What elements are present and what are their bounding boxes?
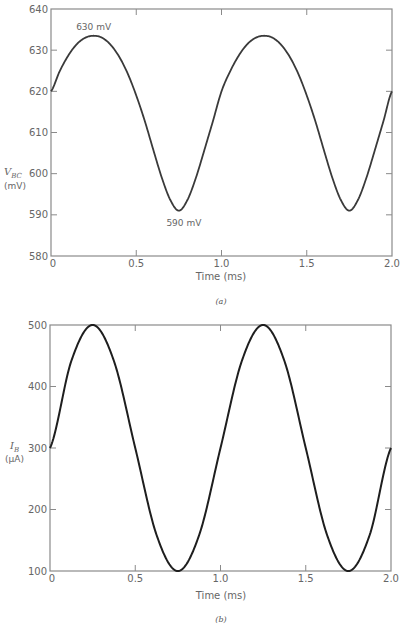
chart-b-x-axis-label: Time (ms) (195, 590, 247, 601)
chart-b-plot-area (50, 325, 391, 571)
y-tick-label: 640 (29, 4, 48, 15)
chart-a-y-axis-unit: (mV) (4, 181, 26, 191)
chart-b-y-tick-labels: 100200300400500 (28, 320, 47, 577)
chart-a-y-tick-labels: 580590600610620630640 (29, 4, 48, 262)
x-tick-label: 1.0 (213, 573, 229, 584)
x-tick-label: 1.5 (299, 258, 315, 269)
chart-a-y-axis-label: VBC (4, 166, 23, 180)
chart-b-svg: 100200300400500 00.51.01.52.0 IB (µA) Ti… (0, 310, 405, 629)
chart-a-annotation-peak: 630 mV (76, 22, 112, 32)
chart-b-ib-vs-time: 100200300400500 00.51.01.52.0 IB (µA) Ti… (0, 310, 405, 629)
chart-a-plot-area (51, 9, 392, 256)
series-line (51, 36, 392, 211)
y-tick-label: 610 (29, 127, 48, 138)
y-tick-label: 620 (29, 86, 48, 97)
plot-frame (51, 9, 392, 256)
x-tick-label: 0.5 (128, 258, 144, 269)
x-tick-label: 2.0 (384, 258, 400, 269)
x-tick-label: 1.0 (214, 258, 230, 269)
series-line (50, 325, 391, 571)
chart-b-x-tick-labels: 00.51.01.52.0 (49, 573, 399, 584)
chart-a-svg: 580590600610620630640 00.51.01.52.0 VBC … (0, 0, 405, 310)
chart-a-x-tick-labels: 00.51.01.52.0 (50, 258, 400, 269)
chart-b-caption: (b) (215, 615, 226, 624)
y-tick-label: 300 (28, 443, 47, 454)
y-tick-label: 200 (28, 504, 47, 515)
y-tick-label: 400 (28, 381, 47, 392)
y-tick-label: 630 (29, 45, 48, 56)
x-tick-label: 0.5 (127, 573, 143, 584)
x-tick-label: 0 (49, 573, 55, 584)
chart-a-caption: (a) (215, 297, 226, 306)
y-tick-label: 500 (28, 320, 47, 331)
y-tick-label: 590 (29, 209, 48, 220)
chart-a-x-axis-label: Time (ms) (195, 271, 247, 282)
y-tick-label: 600 (29, 168, 48, 179)
chart-a-annotation-trough: 590 mV (166, 218, 202, 228)
y-tick-label: 100 (28, 566, 47, 577)
x-tick-label: 1.5 (298, 573, 314, 584)
chart-b-y-axis-label: IB (9, 440, 19, 454)
chart-a-vbc-vs-time: 580590600610620630640 00.51.01.52.0 VBC … (0, 0, 405, 310)
x-tick-label: 2.0 (383, 573, 399, 584)
y-tick-label: 580 (29, 251, 48, 262)
x-tick-label: 0 (50, 258, 56, 269)
chart-b-y-axis-unit: (µA) (5, 454, 24, 464)
